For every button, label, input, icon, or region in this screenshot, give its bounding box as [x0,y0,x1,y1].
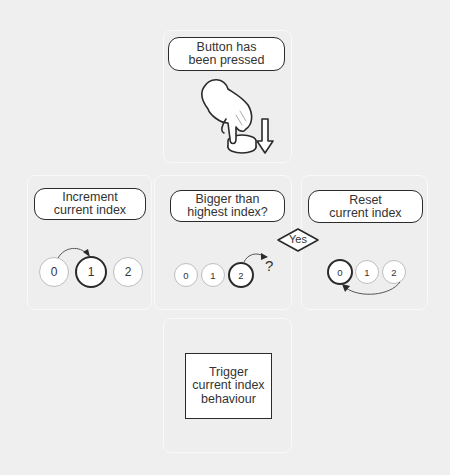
step-label-increment: Increment current index [34,188,146,220]
index-circle-0: 0 [174,263,198,287]
question-mark: ? [265,257,273,274]
step-label-trigger: Trigger current index behaviour [185,353,272,419]
index-circle-1-active: 1 [75,256,107,288]
reset-arrow-icon [338,280,408,300]
step-label-button-pressed: Button has been pressed [168,37,285,71]
step-label-reset: Reset current index [308,190,423,223]
index-circle-0: 0 [39,257,69,287]
decision-yes-label: Yes [289,233,307,245]
step-label-check: Bigger than highest index? [170,190,285,222]
index-circle-2: 2 [113,257,143,287]
index-circle-1: 1 [201,263,225,287]
hand-pressing-button-icon [190,75,285,160]
